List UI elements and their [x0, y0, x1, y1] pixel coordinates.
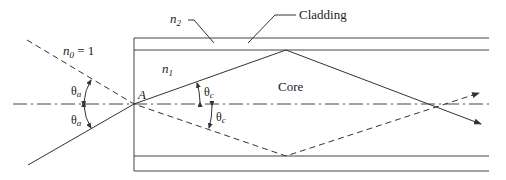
- theta-a-lower-label: θa: [71, 113, 82, 128]
- cladding-leader-line: [248, 15, 296, 43]
- solid-ray: [28, 50, 481, 165]
- n1-label: n1: [162, 61, 173, 78]
- cladding-label: Cladding: [299, 7, 347, 22]
- n2-label: n2: [170, 11, 182, 28]
- n0-label: n0 = 1: [63, 43, 94, 60]
- n2-leader-line: [188, 20, 214, 43]
- theta-c-upper-arc: [197, 83, 200, 102]
- theta-a-upper-label: θa: [71, 84, 82, 99]
- core-label: Core: [278, 79, 304, 94]
- fiber-diagram: Cladding Core n2 n0 = 1 n1 A θa θa θc θc: [0, 0, 506, 180]
- theta-a-lower-arc: [84, 106, 91, 128]
- theta-c-lower-arc: [209, 106, 212, 128]
- theta-a-upper-arc: [84, 80, 91, 102]
- theta-c-lower-label: θc: [216, 110, 226, 125]
- point-a-label: A: [137, 87, 146, 102]
- theta-c-upper-label: θc: [204, 85, 214, 100]
